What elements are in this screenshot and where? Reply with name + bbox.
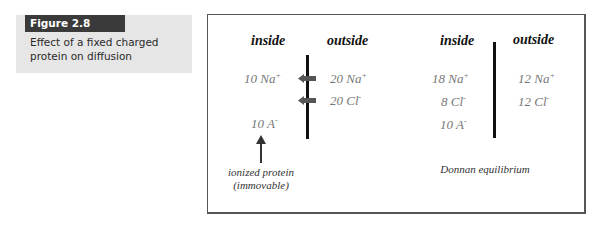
donnan-equilibrium-label: Donnan equilibrium <box>430 163 540 175</box>
right-inside-cl: 8 Cl- <box>441 94 466 110</box>
up-arrow-icon <box>256 135 266 163</box>
right-inside-header: inside <box>440 33 474 49</box>
annotation-line-2: (immovable) <box>226 179 296 191</box>
left-arrow-icon <box>298 74 316 83</box>
left-inside-a: 10 A- <box>251 116 278 132</box>
figure-number-label: Figure 2.8 <box>25 15 125 32</box>
right-outside-cl: 12 Cl- <box>518 94 549 110</box>
right-membrane <box>493 42 496 138</box>
left-inside-na: 10 Na+ <box>244 71 281 87</box>
right-inside-a: 10 A- <box>440 117 467 133</box>
left-outside-na: 20 Na+ <box>330 71 367 87</box>
left-arrow-icon <box>298 96 316 105</box>
right-outside-header: outside <box>513 32 554 48</box>
left-outside-header: outside <box>327 33 368 49</box>
right-outside-na: 12 Na+ <box>518 71 555 87</box>
right-inside-na: 18 Na+ <box>432 71 469 87</box>
left-inside-header: inside <box>251 33 285 49</box>
figure-caption-box: Figure 2.8 Effect of a fixed charged pro… <box>16 15 192 73</box>
figure-caption-text: Effect of a fixed charged protein on dif… <box>30 35 190 63</box>
annotation-line-1: ionized protein <box>226 166 296 178</box>
left-outside-cl: 20 Cl- <box>330 93 361 109</box>
